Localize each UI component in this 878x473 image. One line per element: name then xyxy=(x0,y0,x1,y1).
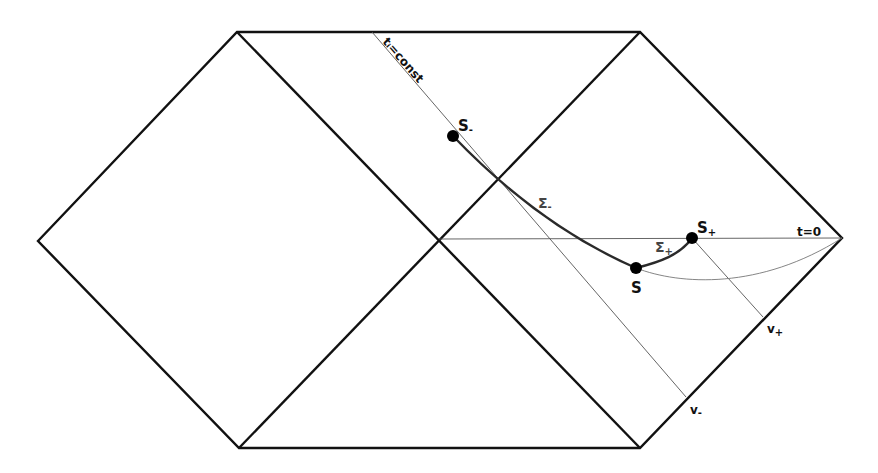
v-plus-label: v+ xyxy=(767,322,783,338)
s-point xyxy=(630,262,642,274)
s-plus-label: S+ xyxy=(697,219,716,238)
t-zero-line xyxy=(439,238,842,239)
t-const-line xyxy=(372,32,686,397)
v-minus-label: v- xyxy=(690,403,702,418)
sigma-minus-label: Σ- xyxy=(538,195,552,212)
s-minus-label: S- xyxy=(458,117,473,135)
penrose-diagram: tᵢ=const t=0 S- S S+ Σ- Σ+ v- v+ xyxy=(0,0,878,473)
sigma-plus-label: Σ+ xyxy=(655,239,673,257)
s-plus-to-v-plus-line xyxy=(692,238,763,317)
boundary-group xyxy=(38,32,842,448)
s-label: S xyxy=(631,279,642,297)
t-zero-label: t=0 xyxy=(797,225,821,239)
t-const-label: tᵢ=const xyxy=(380,35,427,86)
